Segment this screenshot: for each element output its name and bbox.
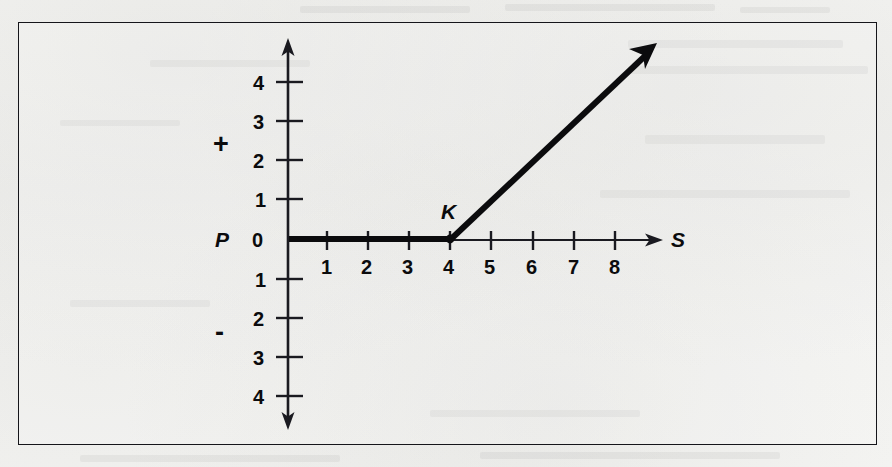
y-tick-label-minus-3: 3 xyxy=(253,348,264,368)
y-tick-label-3: 3 xyxy=(253,112,264,132)
origin-tick-label: 0 xyxy=(252,230,263,250)
payoff-rising-segment xyxy=(450,56,645,240)
payoff-diagram-plot xyxy=(0,0,892,467)
x-tick-label-8: 8 xyxy=(609,257,620,277)
x-tick-label-4: 4 xyxy=(443,257,454,277)
positive-region-marker: + xyxy=(213,131,229,158)
x-tick-label-1: 1 xyxy=(321,257,332,277)
x-tick-label-7: 7 xyxy=(568,257,579,277)
y-tick-label-2: 2 xyxy=(253,151,264,171)
y-tick-label-minus-4: 4 xyxy=(253,387,264,407)
vertical-axis-ticks-positive xyxy=(276,82,303,199)
y-tick-label-4: 4 xyxy=(253,73,264,93)
x-tick-label-3: 3 xyxy=(402,257,413,277)
horizontal-axis-label-S: S xyxy=(671,229,685,250)
payoff-curve-group xyxy=(289,43,657,243)
negative-region-marker: - xyxy=(215,319,224,346)
x-tick-label-6: 6 xyxy=(526,257,537,277)
vertical-axis-group xyxy=(282,38,295,430)
strike-label-K: K xyxy=(441,201,456,222)
y-tick-label-minus-2: 2 xyxy=(253,309,264,329)
x-tick-label-2: 2 xyxy=(361,257,372,277)
strike-vertex-point xyxy=(446,235,455,244)
vertical-axis-ticks-negative xyxy=(276,279,303,396)
y-tick-label-1: 1 xyxy=(255,190,266,210)
vertical-axis-label-P: P xyxy=(215,229,229,250)
x-tick-label-5: 5 xyxy=(484,257,495,277)
y-tick-label-minus-1: 1 xyxy=(255,270,266,290)
figure-page: P S + - K 0 4 3 2 1 1 2 3 4 1 2 3 4 5 6 … xyxy=(0,0,892,467)
